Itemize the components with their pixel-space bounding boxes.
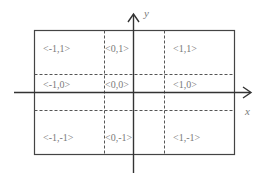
cell-label-0-1: <0,1> xyxy=(105,43,129,54)
cell-label-1-neg1: <1,-1> xyxy=(173,132,200,143)
x-axis-label: x xyxy=(244,105,250,117)
cell-label-0-neg1: <0,-1> xyxy=(105,132,132,143)
cell-label-neg1-1: <-1,1> xyxy=(43,43,70,54)
y-axis-label: y xyxy=(143,7,149,19)
cell-label-1-1: <1,1> xyxy=(173,43,197,54)
cell-label-neg1-neg1: <-1,-1> xyxy=(43,132,74,143)
cell-label-0-0: <0,0> xyxy=(105,79,129,90)
cell-label-1-0: <1,0> xyxy=(173,79,197,90)
grid-cell-diagram: x y <-1,1> <0,1> <1,1> <-1,0> <0,0> <1,0… xyxy=(0,0,265,181)
cell-label-neg1-0: <-1,0> xyxy=(43,79,70,90)
